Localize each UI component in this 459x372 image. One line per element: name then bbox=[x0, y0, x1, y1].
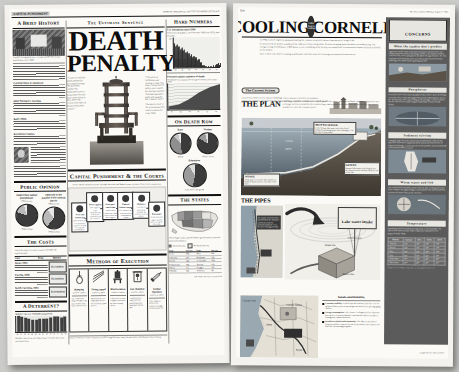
syringe-icon bbox=[149, 270, 165, 288]
the-plan-block: THE PLAN Cold water would be withdrawn a… bbox=[241, 99, 381, 109]
concern-section: What the studies don't predictOpponents … bbox=[389, 43, 447, 85]
goals-and-benefits-block: Goals and benefits Economic stability: C… bbox=[322, 296, 380, 329]
table-cell: 143 bbox=[186, 269, 197, 272]
concern-figure bbox=[388, 107, 446, 131]
bullet-square-icon bbox=[322, 312, 324, 314]
noose-icon bbox=[71, 271, 87, 289]
folio-number: 12A bbox=[240, 9, 244, 12]
plan-callout-1: INTAKE Intake pipe rests on the lake bot… bbox=[243, 173, 280, 187]
method-text: Cyanide pellets drop into acid, producin… bbox=[130, 297, 146, 308]
bullet-square-icon bbox=[322, 321, 324, 323]
campus-map: Cayuga Lake Ithaca Cornell campus Route … bbox=[240, 295, 318, 357]
bar bbox=[220, 63, 221, 67]
electric-chair-icon bbox=[110, 270, 126, 288]
death-row-chart-education: Education Less than 12th grade bbox=[168, 159, 221, 191]
step-badge bbox=[122, 195, 129, 202]
the-plan-title: THE PLAN bbox=[241, 99, 280, 108]
section-on-death-row: On Death Row bbox=[167, 119, 220, 124]
goal-bullet: Economic stability: Cornell says the sys… bbox=[322, 302, 380, 310]
section-the-costs: The Costs bbox=[14, 239, 66, 244]
plan-callout-3: RETURN Warmed lake water is discharged n… bbox=[344, 162, 380, 176]
concern-text: Monitoring stations would track temperat… bbox=[388, 226, 446, 236]
axis-tick: 89 bbox=[49, 333, 52, 336]
method-noose: HangingUsed in 3 statesThe condemned dro… bbox=[70, 269, 90, 331]
method-states: Used in 2 states bbox=[91, 291, 106, 294]
axis-tick: 70 bbox=[199, 68, 206, 70]
left-dateline: SUNDAY, JANUARY 20, 1991 THE EXAMINER SE… bbox=[163, 10, 220, 12]
us-map bbox=[168, 206, 221, 236]
title-cornell: CORNELL bbox=[312, 19, 394, 35]
newspaper-page-cooling-cornell[interactable]: 12A The Ithaca Journal Monday, August 7,… bbox=[231, 3, 455, 366]
table-cell: 49° bbox=[415, 261, 424, 265]
table-cell: Tennessee bbox=[196, 269, 211, 273]
axis-tick: 81 bbox=[19, 333, 22, 336]
axis-tick: 80 bbox=[206, 68, 213, 70]
legend-swatch-death-penalty bbox=[169, 244, 172, 247]
method-electric-chair: ElectrocutionUsed in 11 statesA jolt of … bbox=[109, 269, 129, 331]
section-public-opinion: Public Opinion bbox=[14, 184, 66, 189]
pull-quote-right: “The spirit of retribution and revenge i… bbox=[145, 76, 165, 101]
step-text: Inmate raises claims that could not be r… bbox=[104, 209, 118, 218]
goal-bullet: Energy consumption: Lake Source Cooling … bbox=[322, 311, 380, 319]
left-page-flag-bar: CAPITAL PUNISHMENT SUNDAY, JANUARY 20, 1… bbox=[9, 7, 221, 18]
axis-tick: 80 bbox=[16, 333, 19, 336]
step-badge bbox=[76, 206, 83, 213]
legend-swatch-no-death-penalty bbox=[187, 243, 192, 248]
intro-block: In 1994, Cornell engineers proposed cool… bbox=[260, 38, 382, 56]
concern-text: Opponents say the Draft Environmental Im… bbox=[389, 49, 447, 63]
method-text: Three drugs are delivered in sequence th… bbox=[149, 300, 164, 309]
temperature-table: MonthSurface50 ft.150 ft.250 ft.January3… bbox=[388, 237, 446, 265]
concern-section: TemperatureMonitoring stations would tra… bbox=[388, 221, 446, 236]
axis-tick: 40 bbox=[179, 68, 186, 70]
axis-tick: 92 bbox=[203, 110, 212, 112]
axis-tick: 87 bbox=[42, 333, 45, 336]
concern-figure bbox=[389, 63, 447, 85]
costs-row: Florida, 1988 $3.2 million bbox=[15, 274, 67, 285]
concerns-header: concerns bbox=[389, 19, 447, 41]
axis-tick: 90 bbox=[53, 333, 56, 336]
method-text: Marksmen fire at a target pinned over th… bbox=[91, 297, 106, 306]
table-cell: 41° bbox=[434, 261, 445, 265]
concerns-sections: What the studies don't predictOpponents … bbox=[384, 41, 449, 271]
section-methods-of-execution: Methods of Execution bbox=[69, 257, 167, 264]
table-cell: 99 bbox=[211, 269, 222, 272]
plan-callout-2: HEAT EXCHANGE At the facility, lake wate… bbox=[313, 122, 356, 136]
history-photo bbox=[13, 29, 65, 55]
lake-cross-section-diagram: INTAKE Intake pipe rests on the lake bot… bbox=[241, 117, 381, 196]
rifles-icon bbox=[91, 270, 107, 288]
left-credit: GRAPHIC BY THE EXAMINER bbox=[169, 275, 222, 278]
step-badge bbox=[153, 205, 160, 212]
costs-row: North Carolina, 1993 $2.16 million bbox=[15, 286, 67, 297]
map-label-cayuga-lake: Cayuga Lake bbox=[242, 299, 256, 302]
right-dateline: The Ithaca Journal Monday, August 7, 199… bbox=[410, 10, 448, 12]
method-text: A jolt of 2,000 volts is applied, follow… bbox=[110, 297, 125, 306]
table-row: November50°49°45°41° bbox=[388, 261, 445, 265]
concern-section: Sediment stirringLaying the pipe across … bbox=[388, 133, 446, 179]
method-gas-chamber: Gas chamberUsed in 5 statesCyanide pelle… bbox=[128, 269, 148, 331]
section-capital-punishment-and-the-courts: Capital Punishment & the Courts bbox=[68, 172, 166, 179]
bullet-square-icon bbox=[322, 303, 324, 305]
axis-tick: 88 bbox=[45, 333, 48, 336]
map-label-cornell-campus: Cornell campus bbox=[286, 304, 302, 307]
title-cooling: COOLING bbox=[236, 19, 310, 34]
pipes-label-return-line: Return line bbox=[342, 273, 354, 276]
axis-tick: 83 bbox=[27, 333, 30, 336]
axis-tick: 94 bbox=[212, 110, 221, 112]
electric-chair-illustration bbox=[89, 76, 144, 166]
deterrent-note: Murder rates have not fallen faster in s… bbox=[15, 337, 67, 343]
method-states: Used in 27 states bbox=[149, 294, 164, 297]
axis-tick: 90 bbox=[213, 68, 220, 70]
hard-numbers-chart-1 bbox=[172, 37, 220, 68]
map-caption: Thirty-eight states and the federal gove… bbox=[168, 236, 221, 242]
costs-intro: The price tag of a capital case far exce… bbox=[15, 248, 67, 254]
map-legend: Death penalty No death penalty bbox=[169, 243, 222, 248]
pipes-route-map: The intake and return lines would follow… bbox=[240, 205, 282, 277]
axis-tick: 86 bbox=[38, 333, 41, 336]
headline-penalty: PENALTY bbox=[67, 53, 165, 75]
newspaper-page-death-penalty[interactable]: CAPITAL PUNISHMENT SUNDAY, JANUARY 20, 1… bbox=[4, 3, 229, 365]
left-column-center: The Ultimate Sentence DEATH PENALTY “I w… bbox=[67, 20, 168, 345]
states-table: StateOn rowStateOn rowTexas394Ohio141Cal… bbox=[169, 249, 222, 273]
the-plan-text: Cold water would be withdrawn at a depth… bbox=[283, 100, 382, 109]
axis-tick: 85 bbox=[34, 333, 37, 336]
goals-title: Goals and benefits bbox=[322, 296, 380, 299]
